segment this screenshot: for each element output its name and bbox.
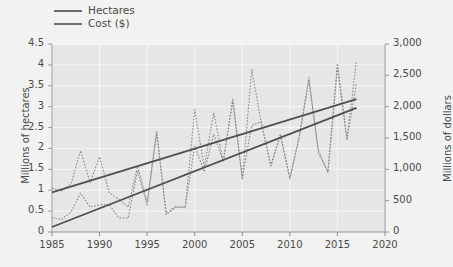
x-axis-tick-label: 2015 [317,239,357,250]
x-axis-tick-label: 2010 [270,239,310,250]
y-axis-left-tick-label: 1 [0,183,44,194]
y-axis-right-tick-label: 1,500 [393,131,422,142]
x-axis-tick-label: 2005 [222,239,262,250]
y-axis-left-tick-label: 0 [0,225,44,236]
x-axis-tick-label: 2000 [175,239,215,250]
x-axis-tick-label: 1985 [32,239,72,250]
y-axis-left-tick-label: 1.5 [0,162,44,173]
x-axis-tick-label: 1990 [80,239,120,250]
x-axis-tick-label: 1995 [127,239,167,250]
y-axis-left-tick-label: 2.5 [0,121,44,132]
y-axis-right-tick-label: 2,500 [393,68,422,79]
y-axis-right-tick-label: 2,000 [393,100,422,111]
y-axis-left-tick-label: 0.5 [0,204,44,215]
y-axis-right-tick-label: 3,000 [393,37,422,48]
y-axis-left-tick-label: 4 [0,58,44,69]
y-axis-left-tick-label: 3.5 [0,79,44,90]
y-axis-right-tick-label: 500 [393,194,412,205]
y-axis-left-tick-label: 2 [0,141,44,152]
y-axis-left-tick-label: 4.5 [0,37,44,48]
y-axis-right-tick-label: 1,000 [393,162,422,173]
y-axis-left-tick-label: 3 [0,100,44,111]
y-axis-right-tick-label: 0 [393,225,399,236]
x-axis-tick-label: 2020 [365,239,405,250]
